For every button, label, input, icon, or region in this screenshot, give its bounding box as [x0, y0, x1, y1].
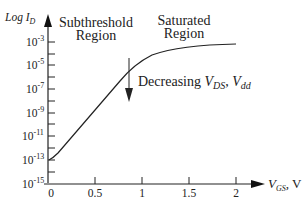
y-tick-labels: 10-3 10-5 10-7 10-9 10-11 10-13 10-15: [22, 34, 44, 190]
y-axis-label: Log ID: [4, 11, 36, 26]
x-axis-label: VGS, V: [268, 176, 302, 193]
y-axis-arrow-icon: [44, 14, 52, 27]
y-tick-label: 10-7: [26, 81, 44, 95]
arrow-down-icon: [125, 88, 133, 102]
x-tick-label: 0: [48, 187, 54, 199]
decreasing-vds-arrow: [125, 58, 133, 102]
x-axis: [44, 177, 265, 188]
y-tick-label: 10-3: [26, 34, 44, 48]
x-tick-labels: 0 0.5 1 1.5 2: [48, 187, 239, 199]
x-tick-label: 1: [139, 187, 145, 199]
y-tick-label: 10-5: [26, 57, 44, 71]
y-tick-label: 10-11: [22, 128, 44, 142]
y-tick-label: 10-15: [22, 176, 44, 190]
subthreshold-region-label: Subthreshold Region: [59, 15, 133, 43]
x-tick-label: 1.5: [182, 187, 197, 199]
x-axis-arrow-icon: [251, 180, 265, 188]
svg-text:Region: Region: [164, 26, 204, 41]
y-tick-label: 10-13: [22, 152, 44, 166]
saturated-region-label: Saturated Region: [158, 13, 211, 41]
id-vgs-curve: [49, 44, 236, 160]
y-tick-label: 10-9: [26, 105, 44, 119]
decreasing-vds-annotation: Decreasing VDS, Vdd: [138, 74, 252, 91]
x-tick-label: 2: [233, 187, 239, 199]
x-tick-label: 0.5: [88, 187, 103, 199]
svg-text:Region: Region: [76, 28, 116, 43]
chart: 10-3 10-5 10-7 10-9 10-11 10-13 10-15 Lo…: [0, 0, 306, 205]
